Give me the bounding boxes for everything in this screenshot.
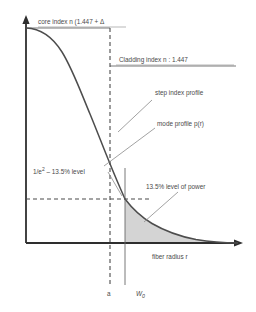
tick-label-core-radius-a: a	[107, 290, 111, 297]
power-level-label: 13.5% level of power	[146, 183, 206, 191]
one-over-e-squared-level-label: 1/e2 – 13.5% level	[33, 166, 85, 175]
cladding-index-label: Cladding index n : 1.447	[119, 56, 188, 64]
mode-profile-label: mode profile p(r)	[157, 120, 204, 128]
step-index-profile-label: step index profile	[155, 89, 204, 97]
x-axis-title: fiber radius r	[152, 253, 188, 260]
w0-subscript: 0	[142, 293, 145, 299]
core-index-label: core index n (1.447 + Δ	[38, 18, 105, 26]
fiber-mode-profile-diagram: core index n (1.447 + Δ Cladding index n…	[0, 0, 256, 312]
level-left-rest: – 13.5% level	[45, 168, 85, 175]
diagram-background	[0, 0, 256, 312]
